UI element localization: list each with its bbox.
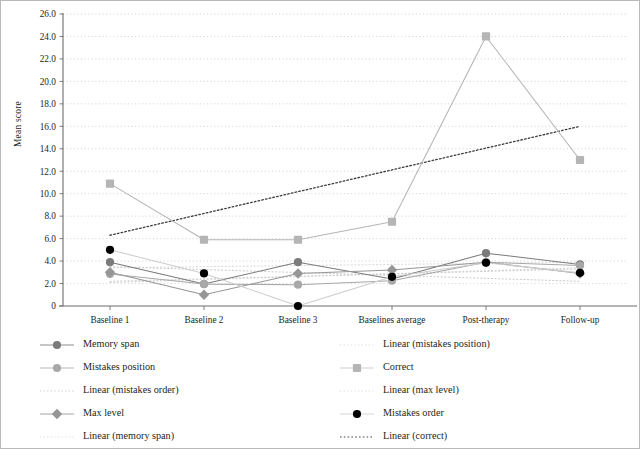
legend-item[interactable]: Mistakes position [1,356,321,379]
y-tick-label: 26.0 [40,9,57,19]
legend-key [339,361,375,375]
series-line [110,250,580,306]
legend-label: Mistakes position [83,362,155,372]
data-point-marker [576,156,584,164]
legend-key-icon [339,407,375,421]
legend-label: Correct [383,362,414,372]
legend-key [39,361,75,375]
data-point-marker [105,267,115,277]
legend-item[interactable]: Memory span [1,333,321,356]
legend-key [339,407,375,421]
y-tick-label: 8.0 [44,211,56,221]
data-point-marker [294,236,302,244]
x-tick-label: Post-therapy [463,315,510,325]
y-tick-label: 20.0 [40,77,57,87]
data-point-marker [106,179,114,187]
chart-legend: Memory spanLinear (mistakes position)Mis… [1,333,640,448]
y-tick-label: 12.0 [40,167,57,177]
data-point-marker [294,258,302,266]
x-tick-label: Baselines average [359,315,426,325]
data-point-marker [200,236,208,244]
data-point-marker [106,246,114,254]
figure-container: Mean score 02.04.06.08.010.012.014.016.0… [0,0,640,449]
legend-label: Linear (memory span) [83,431,174,441]
legend-label: Memory span [83,339,139,349]
legend-key-icon [39,384,75,398]
legend-key [339,338,375,352]
legend-key-icon [39,338,75,352]
legend-label: Mistakes order [383,408,444,418]
y-tick-label: 14.0 [40,144,57,154]
legend-key-icon [339,430,375,444]
legend-item[interactable]: Linear (max level) [321,379,640,402]
legend-item[interactable]: Linear (mistakes order) [1,379,321,402]
legend-key [39,430,75,444]
x-tick-label: Baseline 1 [91,315,130,325]
legend-item[interactable]: Correct [321,356,640,379]
y-tick-label: 10.0 [40,189,57,199]
legend-label: Max level [83,408,124,418]
legend-key [39,384,75,398]
legend-key [339,430,375,444]
y-tick-label: 18.0 [40,99,57,109]
data-point-marker [576,269,584,277]
series-line [110,36,580,239]
legend-key-icon [39,407,75,421]
data-point-marker [200,269,208,277]
legend-label: Linear (mistakes position) [383,339,490,349]
y-tick-label: 0 [51,301,56,311]
legend-key-icon [339,361,375,375]
legend-key-icon [339,338,375,352]
legend-item[interactable]: Linear (mistakes position) [321,333,640,356]
y-tick-label: 6.0 [44,234,56,244]
legend-label: Linear (correct) [383,431,447,441]
data-point-marker [294,281,302,289]
legend-key-icon [39,430,75,444]
y-tick-label: 22.0 [40,54,57,64]
legend-key [339,384,375,398]
data-point-marker [482,32,490,40]
legend-item[interactable]: Linear (memory span) [1,425,321,448]
data-point-marker [106,258,114,266]
chart-svg: 02.04.06.08.010.012.014.016.018.020.022.… [1,1,640,331]
data-point-marker [482,259,490,267]
data-point-marker [199,290,209,300]
x-tick-label: Follow-up [561,315,600,325]
legend-item[interactable]: Linear (correct) [321,425,640,448]
x-tick-label: Baseline 3 [279,315,318,325]
legend-item[interactable]: Max level [1,402,321,425]
legend-item[interactable]: Mistakes order [321,402,640,425]
data-point-marker [482,249,490,257]
legend-key [39,407,75,421]
trendline [110,126,580,235]
legend-key-icon [339,384,375,398]
x-tick-label: Baseline 2 [185,315,224,325]
data-point-marker [388,273,396,281]
legend-key [39,338,75,352]
y-tick-label: 4.0 [44,256,56,266]
data-point-marker [200,280,208,288]
y-tick-label: 2.0 [44,279,56,289]
y-tick-label: 16.0 [40,122,57,132]
legend-label: Linear (mistakes order) [83,385,179,395]
legend-label: Linear (max level) [383,385,459,395]
legend-key-icon [39,361,75,375]
y-tick-label: 24.0 [40,32,57,42]
data-point-marker [294,302,302,310]
plot-area: Mean score 02.04.06.08.010.012.014.016.0… [1,1,640,331]
data-point-marker [388,218,396,226]
